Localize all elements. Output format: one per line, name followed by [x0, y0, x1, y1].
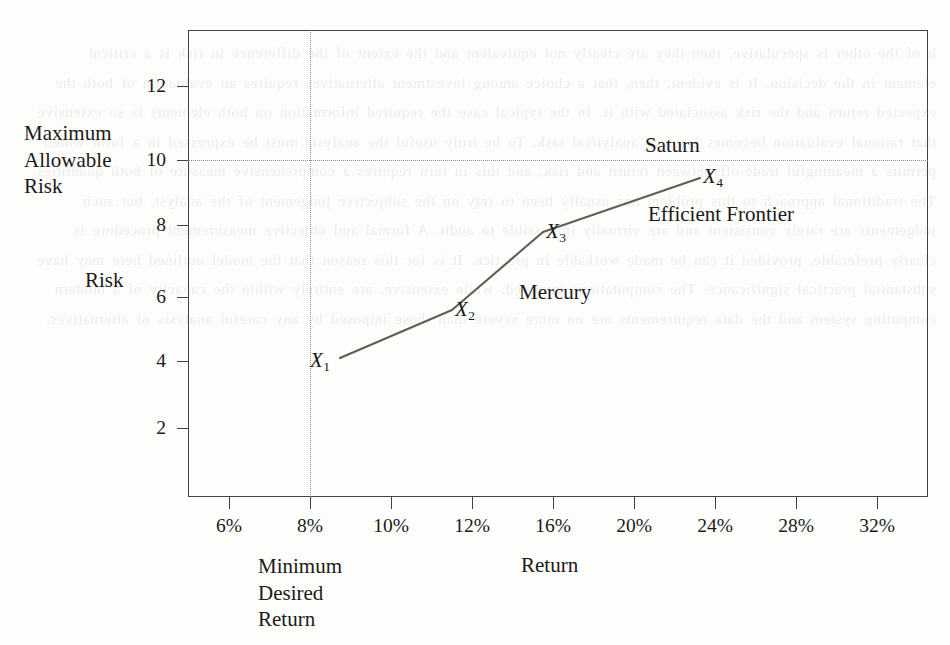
y-tick-mark-6: [177, 297, 188, 298]
annotation-mercury: Mercury: [519, 280, 591, 305]
min-desired-return-gridline: [310, 30, 311, 497]
plot-frame: [188, 30, 928, 497]
y-tick-mark-2: [177, 428, 188, 429]
x-tick-label-24pct: 24%: [675, 515, 755, 537]
data-point-label-x1: X1: [310, 348, 330, 373]
annotation-saturn: Saturn: [645, 133, 700, 158]
x-tick-label-8pct: 8%: [270, 515, 350, 537]
y-tick-label-2: 2: [156, 417, 166, 439]
data-point-label-x2: X2: [455, 297, 475, 322]
y-axis-title: Risk: [85, 268, 124, 293]
x-axis-title: Return: [521, 553, 578, 578]
y-tick-mark-4: [177, 361, 188, 362]
x-tick-label-10pct: 10%: [351, 515, 431, 537]
x-tick-label-12pct: 12%: [432, 515, 512, 537]
y-tick-mark-12: [177, 86, 188, 87]
x-tick-mark-16pct: [553, 497, 554, 509]
x-tick-mark-20pct: [634, 497, 635, 509]
y-tick-label-10: 10: [147, 149, 167, 171]
x-tick-label-20pct: 20%: [594, 515, 674, 537]
x-tick-label-6pct: 6%: [189, 515, 269, 537]
y-tick-label-4: 4: [156, 350, 166, 372]
y-tick-mark-10: [177, 160, 188, 161]
x-tick-mark-12pct: [472, 497, 473, 509]
x-tick-mark-6pct: [229, 497, 230, 509]
y-tick-label-12: 12: [147, 75, 167, 97]
note-minimum-desired-return: Minimum Desired Return: [258, 553, 342, 633]
x-tick-mark-8pct: [310, 497, 311, 509]
x-tick-mark-32pct: [877, 497, 878, 509]
data-point-label-x4: X4: [703, 164, 723, 189]
chart-page: h of the other is speculative, then they…: [0, 0, 950, 645]
y-tick-mark-8: [177, 225, 188, 226]
x-tick-mark-24pct: [715, 497, 716, 509]
x-tick-label-28pct: 28%: [756, 515, 836, 537]
x-tick-mark-10pct: [391, 497, 392, 509]
x-tick-label-32pct: 32%: [837, 515, 917, 537]
note-maximum-allowable-risk: Maximum Allowable Risk: [24, 120, 112, 200]
y-tick-label-6: 6: [156, 286, 166, 308]
max-allowable-risk-gridline: [188, 160, 928, 161]
x-tick-label-16pct: 16%: [513, 515, 593, 537]
x-tick-mark-28pct: [796, 497, 797, 509]
data-point-label-x3: X3: [546, 219, 566, 244]
y-tick-label-8: 8: [156, 214, 166, 236]
annotation-efficient-frontier: Efficient Frontier: [648, 202, 794, 227]
